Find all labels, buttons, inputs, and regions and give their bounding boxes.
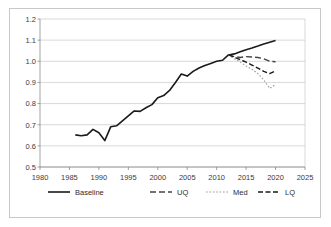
- y-tick-label: 1.1: [26, 36, 36, 45]
- y-axis-tick-labels: 0.50.60.70.80.91.01.11.2: [26, 15, 40, 172]
- y-tick-label: 1.2: [26, 15, 36, 24]
- y-tick-label: 1.0: [26, 57, 36, 66]
- chart-legend: BaselineUQMedLQ: [48, 188, 295, 197]
- x-tick-label: 2025: [297, 173, 314, 182]
- x-tick-label: 2015: [238, 173, 255, 182]
- y-tick-label: 0.7: [26, 121, 36, 130]
- series-baseline: [75, 41, 275, 141]
- x-tick-label: 2005: [179, 173, 196, 182]
- gridlines: [40, 19, 305, 167]
- line-chart: 0.50.60.70.80.91.01.11.2 198019851990199…: [10, 9, 320, 217]
- legend-item-baseline: Baseline: [48, 188, 104, 197]
- legend-item-uq: UQ: [150, 188, 188, 197]
- x-axis-tick-labels: 1980198519901995200020052010201520202025: [32, 167, 314, 182]
- y-tick-label: 0.6: [26, 142, 36, 151]
- legend-label: LQ: [285, 188, 295, 197]
- legend-item-med: Med: [206, 188, 248, 197]
- data-series-group: [75, 41, 275, 141]
- series-med: [228, 55, 275, 88]
- x-tick-label: 2010: [208, 173, 225, 182]
- x-tick-label: 2020: [267, 173, 284, 182]
- axes: [40, 19, 305, 167]
- x-tick-label: 1990: [91, 173, 108, 182]
- y-tick-label: 0.8: [26, 99, 36, 108]
- chart-frame: 0.50.60.70.80.91.01.11.2 198019851990199…: [9, 8, 321, 218]
- y-tick-label: 0.5: [26, 163, 36, 172]
- x-tick-label: 1980: [32, 173, 49, 182]
- x-tick-label: 1995: [120, 173, 137, 182]
- legend-label: UQ: [177, 188, 188, 197]
- y-tick-label: 0.9: [26, 78, 36, 87]
- legend-label: Med: [233, 188, 248, 197]
- x-tick-label: 2000: [149, 173, 166, 182]
- x-tick-label: 1985: [61, 173, 78, 182]
- legend-label: Baseline: [75, 188, 104, 197]
- legend-item-lq: LQ: [258, 188, 295, 197]
